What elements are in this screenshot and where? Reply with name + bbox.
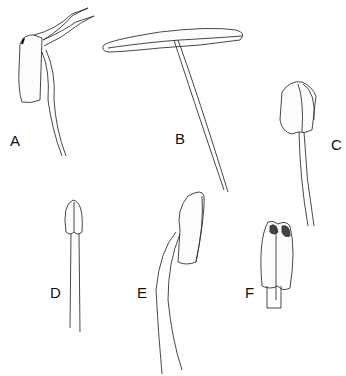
panel-label-a: A (10, 133, 20, 148)
stamen-e (156, 192, 204, 374)
stamen-c (280, 82, 316, 226)
stamen-a (19, 8, 94, 156)
panel-label-f: F (245, 285, 254, 300)
panel-label-b: B (175, 131, 185, 146)
stamen-b (103, 28, 243, 192)
stamen-illustration (0, 0, 346, 376)
panel-label-d: D (50, 285, 61, 300)
stamen-f (261, 221, 293, 308)
panel-label-c: C (331, 137, 342, 152)
stamen-d (65, 200, 82, 332)
panel-label-e: E (137, 285, 147, 300)
